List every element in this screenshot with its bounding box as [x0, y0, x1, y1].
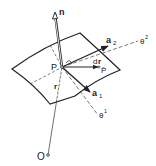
surface-diagram: n a 2 θ 2 P d r P̄ r a 1 θ 1 O: [0, 0, 156, 166]
label-dr-r: r: [98, 57, 101, 66]
label-n: n: [59, 7, 65, 17]
point-Pbar-dot: [98, 66, 100, 68]
label-a2: a: [106, 35, 112, 45]
label-O: O: [37, 151, 45, 162]
label-theta1-sup: 1: [104, 108, 107, 114]
point-P-dot: [61, 66, 64, 69]
label-a1-sub: 1: [99, 93, 103, 99]
label-d: d: [93, 57, 97, 66]
label-Pbar: P̄: [101, 66, 106, 75]
label-a1: a: [92, 88, 98, 98]
label-theta2-sup: 2: [145, 34, 148, 40]
label-P: P: [51, 62, 57, 72]
normal-arrowhead-icon: [53, 12, 58, 19]
label-r: r: [54, 82, 57, 91]
label-a2-sub: 2: [113, 40, 117, 46]
origin-dot: [47, 154, 50, 157]
